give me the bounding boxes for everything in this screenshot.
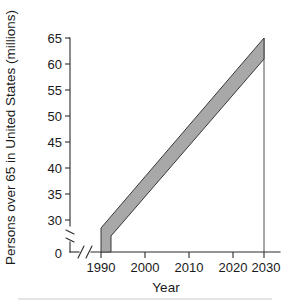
y-tick-label-zero: 0 bbox=[55, 246, 62, 261]
population-projection-chart: Persons over 65 in United States (millio… bbox=[0, 0, 290, 305]
y-tick-label-50: 50 bbox=[48, 109, 62, 124]
y-tick-label-65: 65 bbox=[48, 31, 62, 46]
x-tick-label-1990: 1990 bbox=[87, 260, 116, 275]
projection-band bbox=[101, 38, 264, 252]
y-tick-label-30: 30 bbox=[48, 213, 62, 228]
x-axis-title: Year bbox=[152, 280, 180, 295]
y-tick-label-60: 60 bbox=[48, 57, 62, 72]
y-axis-title: Persons over 65 in United States (millio… bbox=[3, 10, 18, 265]
y-tick-label-45: 45 bbox=[48, 135, 62, 150]
x-tick-label-2020: 2020 bbox=[219, 260, 248, 275]
y-tick-label-40: 40 bbox=[48, 161, 62, 176]
chart-figure: Persons over 65 in United States (millio… bbox=[0, 0, 290, 305]
y-tick-label-35: 35 bbox=[48, 187, 62, 202]
x-axis-break-icon bbox=[78, 246, 92, 258]
x-tick-label-2030: 2030 bbox=[252, 260, 281, 275]
x-tick-label-2000: 2000 bbox=[131, 260, 160, 275]
x-tick-label-2010: 2010 bbox=[175, 260, 204, 275]
y-axis-break-icon bbox=[66, 230, 74, 242]
y-tick-label-55: 55 bbox=[48, 83, 62, 98]
